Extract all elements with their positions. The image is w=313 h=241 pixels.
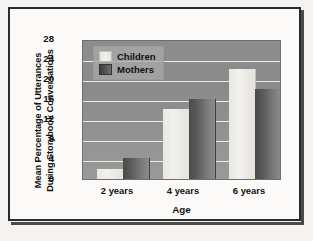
x-tick-label-4-years: 4 years [148, 185, 218, 196]
legend-item-mothers: Mothers [99, 63, 156, 76]
y-tick-label-8: 8 [28, 134, 54, 144]
bar-mothers-6-years [255, 89, 281, 179]
frame-shadow-right [301, 10, 304, 222]
bar-children-4-years [163, 109, 190, 179]
x-axis-title: Age [82, 204, 281, 215]
chart-frame: Mean Percentage of Utterances During Sto… [8, 7, 301, 221]
legend-label-children: Children [117, 51, 156, 62]
y-tick-label-4: 4 [28, 154, 54, 164]
bar-children-6-years [229, 69, 256, 179]
bar-children-2-years [97, 169, 124, 179]
figure: Mean Percentage of Utterances During Sto… [0, 0, 313, 241]
y-tick-label-0: 0 [28, 174, 54, 184]
y-tick-label-28: 28 [28, 34, 54, 44]
y-tick-label-24: 24 [28, 54, 54, 64]
legend-label-mothers: Mothers [117, 64, 154, 75]
x-tick-label-6-years: 6 years [214, 185, 284, 196]
y-tick-label-20: 20 [28, 74, 54, 84]
frame-shadow-bottom [11, 222, 304, 225]
plot-area: Children Mothers [82, 40, 281, 180]
y-tick-label-16: 16 [28, 94, 54, 104]
bar-mothers-4-years [189, 99, 216, 179]
y-tick-label-12: 12 [28, 114, 54, 124]
legend-swatch-mothers-icon [99, 64, 112, 75]
x-tick-label-2-years: 2 years [82, 185, 152, 196]
legend-item-children: Children [99, 50, 156, 63]
bar-mothers-2-years [123, 158, 150, 180]
legend: Children Mothers [93, 46, 164, 80]
legend-swatch-children-icon [99, 51, 112, 62]
